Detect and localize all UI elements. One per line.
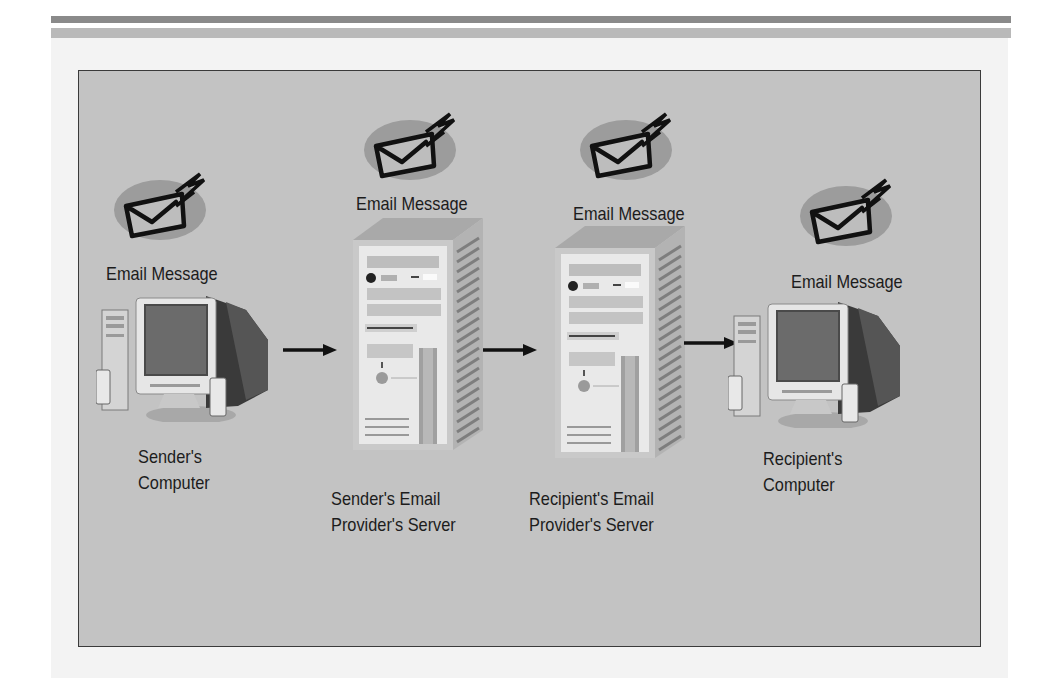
desktop-computer-icon <box>96 290 274 422</box>
envelope-with-lightning-icon <box>362 110 462 190</box>
header-rule-light <box>51 28 1011 38</box>
envelope-with-lightning-icon <box>578 110 678 190</box>
header-rule-dark <box>51 16 1011 23</box>
node-caption: Recipient's Computer <box>763 446 842 498</box>
server-tower-icon <box>555 226 687 460</box>
message-label: Email Message <box>106 262 218 285</box>
message-label: Email Message <box>356 192 468 215</box>
arrow-right-icon <box>283 343 339 357</box>
message-label: Email Message <box>573 202 685 225</box>
envelope-with-lightning-icon <box>112 170 212 250</box>
arrow-right-icon <box>483 343 539 357</box>
envelope-with-lightning-icon <box>798 176 898 256</box>
server-tower-icon <box>353 218 485 452</box>
node-caption: Sender's Email Provider's Server <box>331 486 456 538</box>
node-caption: Recipient's Email Provider's Server <box>529 486 654 538</box>
node-caption: Sender's Computer <box>138 444 210 496</box>
desktop-computer-icon <box>728 296 906 428</box>
message-label: Email Message <box>791 270 903 293</box>
